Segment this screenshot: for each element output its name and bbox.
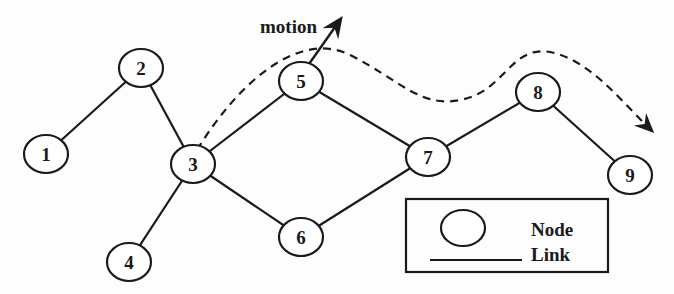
node-8: 8 — [516, 73, 560, 111]
node-label: 7 — [423, 147, 433, 168]
node-label: 5 — [296, 71, 306, 92]
node-label: 6 — [296, 227, 306, 248]
link-6-7 — [301, 157, 428, 237]
node-label: 2 — [136, 58, 146, 79]
legend-link-label: Link — [531, 244, 571, 265]
node-label: 9 — [625, 165, 635, 186]
node-2: 2 — [119, 49, 163, 87]
node-label: 3 — [188, 154, 198, 175]
node-label: 8 — [533, 82, 543, 103]
node-1: 1 — [24, 135, 68, 173]
node-3: 3 — [171, 145, 215, 183]
diagram-svg: motion 123456789 Node Link — [0, 0, 674, 294]
node-label: 4 — [124, 252, 134, 273]
node-5: 5 — [279, 62, 323, 100]
network-diagram: motion 123456789 Node Link — [0, 0, 674, 294]
legend-node-label: Node — [531, 219, 573, 240]
node-6: 6 — [279, 218, 323, 256]
node-9: 9 — [608, 156, 652, 194]
node-4: 4 — [107, 243, 151, 281]
legend-node-icon — [441, 210, 485, 246]
legend: Node Link — [406, 199, 608, 272]
motion-path-arrow — [197, 48, 651, 150]
node-label: 1 — [41, 144, 51, 165]
motion-label: motion — [260, 16, 317, 37]
node-7: 7 — [406, 138, 450, 176]
